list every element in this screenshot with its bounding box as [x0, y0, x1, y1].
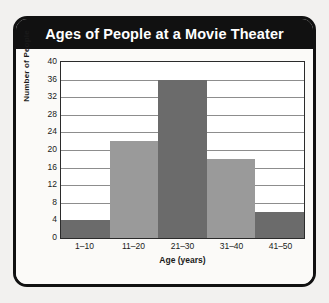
bar	[207, 159, 256, 238]
bar	[61, 220, 110, 238]
bar-series	[61, 62, 304, 238]
page-title: Ages of People at a Movie Theater	[45, 26, 284, 42]
y-tick-label: 8	[52, 197, 57, 207]
y-tick-label: 16	[48, 162, 57, 172]
y-tick-label: 24	[48, 126, 57, 136]
x-tick-label: 21–30	[158, 241, 207, 251]
y-axis-tick-labels: 0481216202428323640	[30, 61, 57, 237]
y-tick-label: 0	[52, 232, 57, 242]
plot-frame	[60, 61, 305, 239]
chart-card: Ages of People at a Movie Theater Number…	[13, 16, 316, 287]
chart-plot-area: Number of People 0481216202428323640 1–1…	[16, 49, 313, 284]
x-tick-label: 41–50	[256, 241, 305, 251]
chart-title-bar: Ages of People at a Movie Theater	[16, 19, 313, 49]
y-tick-label: 20	[48, 144, 57, 154]
x-tick-label: 31–40	[207, 241, 256, 251]
x-tick-label: 1–10	[60, 241, 109, 251]
y-tick-label: 12	[48, 179, 57, 189]
bar	[255, 212, 304, 238]
x-axis-label: Age (years)	[60, 255, 305, 265]
x-tick-label: 11–20	[109, 241, 158, 251]
bar	[110, 141, 159, 238]
y-tick-label: 28	[48, 109, 57, 119]
y-tick-label: 4	[52, 214, 57, 224]
y-tick-label: 32	[48, 91, 57, 101]
x-axis-tick-labels: 1–1011–2021–3031–4041–50	[60, 241, 305, 251]
y-tick-label: 40	[48, 56, 57, 66]
bar	[158, 80, 207, 238]
y-tick-label: 36	[48, 74, 57, 84]
